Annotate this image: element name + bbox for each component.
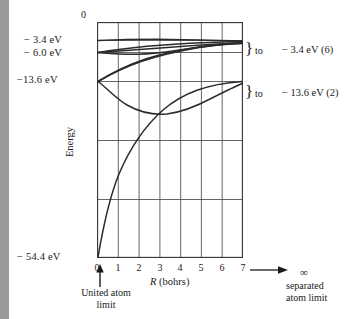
x-tick-label-1: 1: [111, 262, 125, 273]
x-tick-label-5: 5: [194, 262, 208, 273]
infinity-symbol: ∞: [300, 266, 308, 278]
curve-ground-state: [98, 82, 242, 258]
x-tick-label-2: 2: [132, 262, 146, 273]
united-atom-arrow-icon: [92, 264, 112, 288]
upper-limit-label: − 3.4 eV (6): [282, 44, 333, 55]
y-axis-title: Energy: [64, 112, 75, 172]
y-tick-label-minus-3-4-ev: − 3.4 eV: [24, 34, 62, 45]
y-tick-label-minus-6-0-ev: − 6.0 eV: [24, 47, 62, 58]
x-tick-label-7: 7: [236, 262, 250, 273]
y-tick-label-minus-54-4-ev: − 54.4 eV: [17, 251, 61, 262]
plot-area: [97, 22, 243, 258]
plot-svg: [97, 22, 243, 258]
upper-brace-to-word: to: [255, 45, 263, 56]
energy-curves: [98, 39, 242, 257]
vertical-gridlines: [98, 22, 243, 258]
scan-edge-strip: [0, 0, 9, 319]
upper-brace: }: [245, 40, 253, 57]
energy-correlation-diagram: 0 − 3.4 eV − 6.0 eV −13.6 eV − 54.4 eV E…: [0, 0, 356, 319]
united-atom-limit-line2: limit: [51, 299, 161, 311]
separated-atom-limit-line2: atom limit: [286, 292, 356, 304]
y-tick-label-minus-13-6-ev: −13.6 eV: [17, 74, 58, 85]
x-axis-title: R (bohrs): [150, 276, 189, 287]
separated-atom-limit-line1: separated: [286, 280, 356, 292]
plot-border: [98, 23, 243, 258]
separated-atom-arrow-icon: [250, 263, 290, 277]
x-axis-title-units: (bohrs): [156, 276, 189, 287]
curve-sigma-u-dip: [98, 82, 242, 115]
x-tick-label-3: 3: [153, 262, 167, 273]
lower-brace-to-word: to: [255, 88, 263, 99]
horizontal-gridlines: [97, 23, 243, 258]
separated-atom-limit-caption: separated atom limit: [286, 280, 356, 303]
lower-limit-label: − 13.6 eV (2): [282, 87, 338, 98]
lower-brace: }: [245, 83, 253, 100]
x-tick-label-6: 6: [215, 262, 229, 273]
y-tick-label-zero: 0: [81, 9, 86, 20]
x-tick-label-4: 4: [173, 262, 187, 273]
united-atom-limit-line1: United atom: [51, 287, 161, 299]
united-atom-limit-caption: United atom limit: [51, 287, 161, 310]
